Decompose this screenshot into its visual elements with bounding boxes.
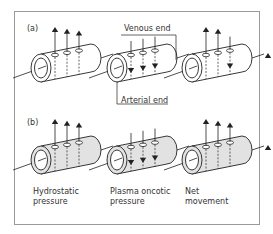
- flow-line: [252, 54, 264, 58]
- arrow-out-icon: [64, 121, 70, 126]
- flow-arrow-icon: [265, 145, 271, 150]
- arrow-out-icon: [64, 29, 70, 34]
- arrow-out-icon: [52, 27, 58, 32]
- flow-arrow-icon: [265, 53, 271, 58]
- arrow-out-icon: [215, 121, 221, 126]
- arrow-out-icon: [203, 27, 209, 32]
- arrow-out-icon: [76, 123, 82, 128]
- flow-line: [252, 146, 264, 150]
- arrow-out-icon: [52, 119, 58, 124]
- arrow-out-icon: [227, 123, 233, 128]
- arrow-out-icon: [215, 29, 221, 34]
- arrow-out-icon: [203, 119, 209, 124]
- capillary-diagram: [0, 0, 273, 234]
- arrow-out-icon: [76, 31, 82, 36]
